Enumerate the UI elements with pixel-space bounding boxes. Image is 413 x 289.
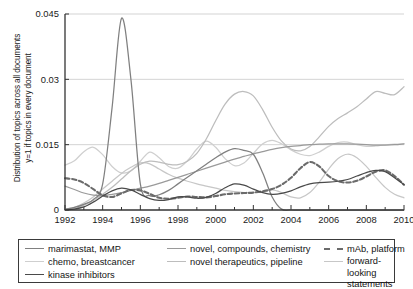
svg-text:1994: 1994 <box>92 214 113 225</box>
legend-label: forward-looking statements <box>347 256 394 289</box>
line-chart-plot: 00.0150.030.045 199219941996199820002002… <box>0 0 413 238</box>
svg-text:2006: 2006 <box>318 214 339 225</box>
legend-swatch-icon <box>25 269 44 281</box>
gridlines <box>65 14 404 145</box>
axis-spines <box>65 14 404 210</box>
legend-swatch-icon <box>324 256 343 268</box>
svg-text:2000: 2000 <box>205 214 226 225</box>
series-line <box>65 170 404 210</box>
data-series-group <box>65 18 404 210</box>
legend-swatch-icon <box>167 243 186 255</box>
series-line <box>65 140 404 173</box>
svg-text:1992: 1992 <box>55 214 76 225</box>
svg-text:0.03: 0.03 <box>41 74 59 85</box>
legend-item[interactable]: novel therapeutics, pipeline <box>167 256 330 269</box>
svg-text:2004: 2004 <box>281 214 302 225</box>
legend-column-1: marimastat, MMPchemo, breastcancerkinase… <box>25 243 165 282</box>
legend-swatch-icon <box>25 256 44 268</box>
legend-label: mAb, platform <box>347 243 405 255</box>
legend-swatch-icon <box>25 243 44 255</box>
svg-text:0.045: 0.045 <box>36 8 59 19</box>
legend-item[interactable]: mAb, platform <box>324 243 394 256</box>
chart-legend: marimastat, MMPchemo, breastcancerkinase… <box>18 239 395 283</box>
x-tick-marks <box>65 205 404 210</box>
y-tick-labels: 00.0150.030.045 <box>36 8 59 215</box>
legend-item[interactable]: marimastat, MMP <box>25 243 165 256</box>
legend-column-2: novel, compounds, chemistrynovel therape… <box>167 243 330 269</box>
legend-label: chemo, breastcancer <box>48 256 135 268</box>
svg-text:1996: 1996 <box>130 214 151 225</box>
legend-swatch-icon <box>167 256 186 268</box>
legend-label: novel, compounds, chemistry <box>190 243 310 255</box>
figure-container: Distribution of topics across all docume… <box>0 0 413 289</box>
svg-text:0.015: 0.015 <box>36 139 59 150</box>
legend-swatch-icon <box>324 243 343 255</box>
legend-label: novel therapeutics, pipeline <box>190 256 303 268</box>
legend-label: marimastat, MMP <box>48 243 121 255</box>
legend-label: kinase inhibitors <box>48 269 115 281</box>
legend-item[interactable]: kinase inhibitors <box>25 269 165 282</box>
legend-column-3: mAb, platformforward-looking statements <box>324 243 394 269</box>
svg-text:2002: 2002 <box>243 214 264 225</box>
legend-item[interactable]: chemo, breastcancer <box>25 256 165 269</box>
svg-text:2010: 2010 <box>394 214 413 225</box>
legend-item[interactable]: novel, compounds, chemistry <box>167 243 330 256</box>
svg-text:2008: 2008 <box>356 214 377 225</box>
x-tick-labels: 1992199419961998200020022004200620082010 <box>55 214 413 225</box>
svg-text:1998: 1998 <box>168 214 189 225</box>
legend-item[interactable]: forward-looking statements <box>324 256 394 269</box>
